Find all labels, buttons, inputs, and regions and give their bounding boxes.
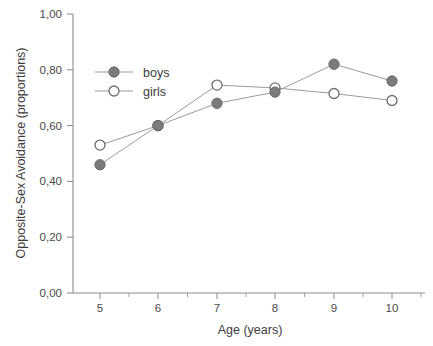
legend-entry-boys[interactable]: boys — [95, 66, 169, 80]
x-axis-title: Age (years) — [218, 323, 283, 337]
data-point-boys-age-9 — [329, 59, 339, 69]
x-tick-label-6: 6 — [155, 302, 161, 314]
data-point-boys-age-10 — [387, 76, 397, 86]
data-point-boys-age-6 — [153, 120, 163, 130]
y-tick-label-0_40: 0,40 — [40, 175, 62, 187]
x-tick-label-7: 7 — [214, 302, 220, 314]
data-point-boys-age-5 — [95, 160, 105, 170]
data-point-girls-age-10 — [387, 96, 397, 106]
y-axis: 1,00 0,80 0,60 0,40 0,20 0,00 Opposite-S… — [14, 8, 73, 299]
boys-markers — [95, 59, 397, 170]
y-tick-label-0_60: 0,60 — [40, 120, 62, 132]
x-tick-label-8: 8 — [272, 302, 278, 314]
series-girls — [95, 80, 397, 150]
data-point-boys-age-8 — [270, 87, 280, 97]
x-tick-label-9: 9 — [331, 302, 337, 314]
x-tick-label-10: 10 — [386, 302, 399, 314]
line-chart-figure: 1,00 0,80 0,60 0,40 0,20 0,00 Opposite-S… — [0, 0, 433, 346]
legend: boys girls — [95, 66, 169, 99]
y-tick-label-0_20: 0,20 — [40, 231, 62, 243]
y-tick-label-1_00: 1,00 — [40, 8, 62, 20]
girls-markers — [95, 80, 397, 150]
legend-label-girls: girls — [143, 85, 166, 99]
legend-label-boys: boys — [143, 66, 169, 80]
series-boys — [95, 59, 397, 170]
data-point-boys-age-7 — [212, 98, 222, 108]
data-point-girls-age-5 — [95, 140, 105, 150]
legend-entry-girls[interactable]: girls — [95, 85, 166, 99]
x-axis: 5 6 7 8 9 10 Age (years) — [73, 293, 425, 337]
data-point-girls-age-7 — [212, 80, 222, 90]
y-tick-label-0_80: 0,80 — [40, 64, 62, 76]
legend-filled-circle-icon — [109, 67, 119, 77]
y-axis-title: Opposite-Sex Avoidance (proportions) — [14, 48, 28, 259]
y-tick-label-0_00: 0,00 — [40, 287, 62, 299]
data-point-girls-age-9 — [329, 89, 339, 99]
legend-open-circle-icon — [109, 86, 119, 96]
x-tick-label-5: 5 — [97, 302, 103, 314]
chart-svg: 1,00 0,80 0,60 0,40 0,20 0,00 Opposite-S… — [0, 0, 433, 346]
